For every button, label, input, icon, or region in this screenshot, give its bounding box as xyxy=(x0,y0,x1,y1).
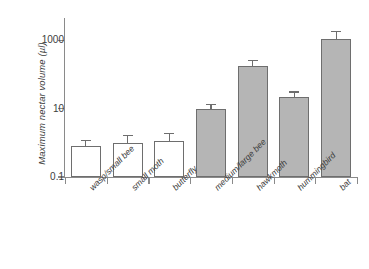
y-axis-tick-label: 10 xyxy=(18,104,64,114)
bar-wasp-small-bee xyxy=(71,146,101,177)
nectar-volume-bar-chart: Maximum nectar volume (µl) 1000100.1 was… xyxy=(0,0,369,269)
y-axis-tick-label: 1000 xyxy=(18,35,64,45)
error-bar-cap xyxy=(206,104,216,105)
error-bar-cap xyxy=(123,135,133,136)
error-bar-cap xyxy=(331,31,341,32)
error-bar-cap xyxy=(164,133,174,134)
x-axis-tick-mark xyxy=(65,178,66,184)
error-bar-stem xyxy=(336,31,337,39)
y-axis-tick-label: 0.1 xyxy=(18,172,64,182)
x-axis-label-bat: bat xyxy=(338,178,353,193)
error-bar-cap xyxy=(81,140,91,141)
error-bar-stem xyxy=(169,133,170,142)
error-bar-cap xyxy=(289,91,299,92)
x-axis-tick-mark xyxy=(357,178,358,184)
x-axis-label-text: bat xyxy=(338,178,353,193)
y-axis-tick-group: 1000100.1 xyxy=(0,0,64,200)
y-axis-line xyxy=(64,18,65,178)
bar-medium-large-bee xyxy=(196,109,226,177)
error-bar-cap xyxy=(248,60,258,61)
